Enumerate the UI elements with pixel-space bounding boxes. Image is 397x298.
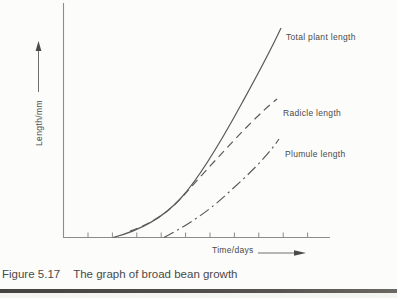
- curve-label-radicle-length: Radicle length: [283, 109, 341, 118]
- figure-5-17: Length/mm Time/days Total plant length R…: [0, 0, 397, 298]
- radicle-length-curve: [130, 99, 277, 231]
- y-axis-label: Length/mm: [35, 100, 44, 146]
- total-plant-length-curve: [113, 28, 281, 238]
- x-axis-label: Time/days: [212, 246, 254, 255]
- page-edge-below: [0, 293, 397, 298]
- y-axis-arrowhead-icon: [36, 41, 42, 51]
- figure-caption-text: The graph of broad bean growth: [73, 268, 237, 280]
- figure-caption: Figure 5.17The graph of broad bean growt…: [2, 268, 238, 282]
- x-axis-arrowhead-icon: [294, 250, 306, 256]
- curve-label-plumule-length: Plumule length: [285, 150, 345, 159]
- curve-label-total-plant-length: Total plant length: [286, 33, 356, 42]
- figure-caption-number: Figure 5.17: [2, 268, 60, 280]
